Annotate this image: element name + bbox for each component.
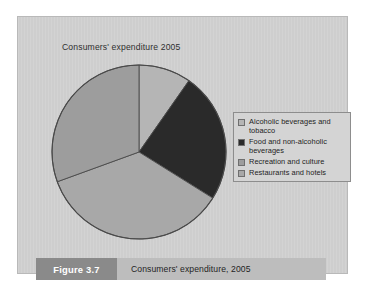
legend-label: Alcoholic beverages and tobacco: [249, 117, 346, 135]
figure-page: Consumers' expenditure 2005 Alcoholic be…: [0, 0, 370, 293]
legend-label: Restaurants and hotels: [249, 168, 326, 177]
legend-item[interactable]: Alcoholic beverages and tobacco: [238, 117, 346, 135]
legend-label: Food and non-alcoholic beverages: [249, 137, 346, 155]
pie-chart: [51, 64, 227, 240]
figure-number-label: Figure 3.7: [53, 264, 99, 275]
legend-item[interactable]: Recreation and culture: [238, 157, 346, 166]
pie-chart-svg: [51, 64, 227, 240]
pie-slice-group: [52, 65, 226, 239]
legend-swatch-restaurants-and-hotels: [238, 170, 245, 177]
figure-caption-bar: Figure 3.7 Consumers' expenditure, 2005: [36, 258, 326, 280]
chart-title: Consumers' expenditure 2005: [62, 42, 180, 52]
figure-caption-box: Consumers' expenditure, 2005: [117, 258, 326, 280]
legend-label: Recreation and culture: [249, 157, 324, 166]
legend-item[interactable]: Restaurants and hotels: [238, 168, 346, 177]
legend-swatch-alcoholic-beverages-and-tobacco: [238, 119, 245, 126]
legend-swatch-recreation-and-culture: [238, 159, 245, 166]
figure-panel: Consumers' expenditure 2005 Alcoholic be…: [17, 16, 348, 274]
figure-number-box: Figure 3.7: [36, 258, 117, 280]
legend-swatch-food-and-non-alcoholic-beverages: [238, 139, 245, 146]
figure-caption-text: Consumers' expenditure, 2005: [131, 264, 251, 274]
chart-legend: Alcoholic beverages and tobacco Food and…: [233, 112, 351, 182]
legend-item[interactable]: Food and non-alcoholic beverages: [238, 137, 346, 155]
